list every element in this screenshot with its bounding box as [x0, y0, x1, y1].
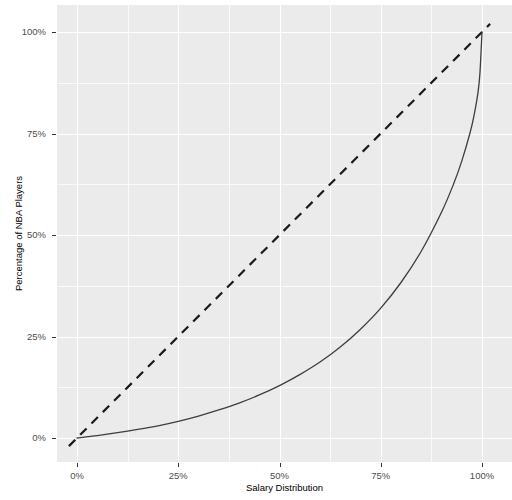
x-tick-label: 25%	[148, 470, 208, 481]
x-tick-mark	[381, 463, 382, 467]
panel-gridlines	[57, 5, 512, 462]
x-tick-mark	[280, 463, 281, 467]
gridline-vertical	[482, 5, 483, 462]
y-axis-title: Percentage of NBA Players	[13, 124, 24, 344]
gridline-horizontal	[57, 337, 512, 338]
gridline-horizontal	[57, 32, 512, 33]
gridline-vertical	[178, 5, 179, 462]
gridline-horizontal	[57, 387, 512, 388]
y-tick-label: 0%	[0, 433, 46, 443]
gridline-vertical	[431, 5, 432, 462]
gridline-horizontal	[57, 184, 512, 185]
gridline-vertical	[128, 5, 129, 462]
gridline-horizontal	[57, 286, 512, 287]
plot-panel	[57, 5, 512, 462]
x-tick-label: 0%	[47, 470, 107, 481]
gridline-vertical	[381, 5, 382, 462]
y-tick-mark	[52, 134, 56, 135]
y-tick-mark	[52, 438, 56, 439]
x-tick-label: 75%	[351, 470, 411, 481]
gridline-vertical	[229, 5, 230, 462]
gridline-vertical	[330, 5, 331, 462]
gridline-horizontal	[57, 235, 512, 236]
x-tick-label: 100%	[452, 470, 512, 481]
x-tick-label: 50%	[250, 470, 310, 481]
x-axis-title: Salary Distribution	[57, 482, 512, 493]
gridline-horizontal	[57, 83, 512, 84]
x-tick-mark	[178, 463, 179, 467]
y-tick-mark	[52, 235, 56, 236]
y-tick-mark	[52, 337, 56, 338]
gridline-vertical	[280, 5, 281, 462]
gridline-vertical	[77, 5, 78, 462]
y-tick-mark	[52, 32, 56, 33]
x-tick-mark	[482, 463, 483, 467]
lorenz-curve-chart: 0%25%50%75%100%0%25%50%75%100% Salary Di…	[0, 0, 512, 500]
gridline-horizontal	[57, 438, 512, 439]
gridline-horizontal	[57, 134, 512, 135]
x-tick-mark	[77, 463, 78, 467]
y-tick-label: 100%	[0, 27, 46, 37]
